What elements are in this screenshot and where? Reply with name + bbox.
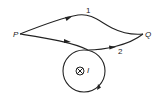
path-1-arrow-icon [65, 17, 72, 22]
point-p-label: P [13, 30, 19, 39]
path-1 [20, 15, 143, 35]
path-2 [20, 34, 143, 50]
path-2-first-arrow-icon [64, 39, 71, 43]
point-q-label: Q [145, 30, 151, 39]
path-2-label: 2 [118, 47, 123, 56]
path-1-label: 1 [86, 6, 91, 15]
current-into-page-icon [76, 67, 84, 75]
current-label: I [87, 66, 90, 75]
diagram-canvas: P Q 1 2 I [0, 0, 164, 102]
